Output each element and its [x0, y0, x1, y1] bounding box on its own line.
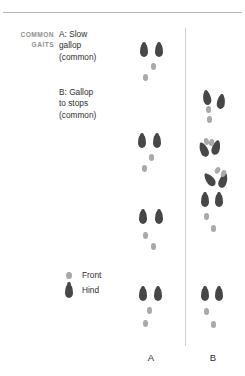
hind-print	[153, 134, 161, 148]
caption-gait-b-line-2: to stops	[59, 98, 121, 109]
caption-gait-a: A: Slow gallop (common)	[59, 29, 121, 63]
caption-gait-b-line-1: B: Gallop	[59, 87, 121, 98]
gait-diagram-figure: COMMON GAITS A: Slow gallop (common) B: …	[0, 0, 245, 376]
caption-gait-a-line-3: (common)	[59, 52, 121, 63]
front-print	[204, 213, 209, 220]
column-divider-line	[185, 28, 186, 346]
hind-print	[140, 43, 148, 57]
legend: Front Hind	[62, 268, 101, 298]
legend-label-hind: Hind	[82, 285, 99, 296]
front-print	[211, 321, 216, 328]
hind-print	[154, 287, 162, 301]
front-print	[206, 106, 211, 113]
track-print-plot	[0, 0, 245, 376]
front-print	[147, 307, 152, 314]
hind-print	[138, 134, 146, 148]
legend-row-front: Front	[62, 268, 101, 283]
front-print	[142, 165, 147, 172]
front-print-icon	[62, 272, 76, 279]
caption-gait-b-line-3: (common)	[59, 110, 121, 121]
hind-print	[155, 43, 163, 57]
top-divider-rule	[3, 12, 242, 13]
front-print	[143, 320, 148, 327]
section-label: COMMON GAITS	[8, 30, 54, 49]
hind-print-icon	[62, 284, 76, 298]
legend-label-front: Front	[82, 270, 101, 281]
section-label-line-1: COMMON	[21, 31, 54, 38]
front-print	[207, 116, 212, 123]
front-print	[204, 308, 209, 315]
front-print	[151, 243, 156, 250]
caption-gait-b: B: Gallop to stops (common)	[59, 87, 121, 121]
hind-print	[203, 172, 218, 188]
column-label-b: B	[203, 352, 223, 363]
caption-gait-a-line-1: A: Slow	[59, 29, 121, 40]
hind-print	[216, 95, 226, 110]
front-print	[149, 154, 154, 161]
column-label-a: A	[141, 352, 161, 363]
front-print	[151, 63, 156, 70]
caption-gait-a-line-2: gallop	[59, 40, 121, 51]
hind-print	[139, 210, 147, 224]
hind-print	[215, 287, 223, 301]
front-print	[143, 74, 148, 81]
hind-print	[201, 193, 209, 207]
hind-print	[139, 287, 147, 301]
hind-print	[201, 287, 209, 301]
hind-print	[155, 210, 163, 224]
front-print	[143, 232, 148, 239]
hind-print	[215, 193, 223, 207]
hind-print	[202, 90, 212, 105]
section-label-line-2: GAITS	[32, 41, 54, 48]
front-print	[211, 225, 216, 232]
legend-row-hind: Hind	[62, 283, 101, 298]
